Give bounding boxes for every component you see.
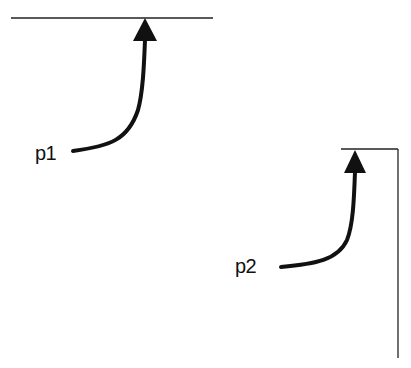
label-p2: p2 <box>235 256 256 276</box>
p2-arrow-stem <box>281 172 355 267</box>
p1-arrowhead-icon <box>133 18 157 41</box>
p2-arrow <box>281 150 366 267</box>
label-p1: p1 <box>35 143 56 163</box>
p1-arrow-stem <box>73 40 145 151</box>
p1-arrow <box>73 18 157 151</box>
p2-arrowhead-icon <box>344 150 366 173</box>
diagram-canvas <box>0 0 411 368</box>
